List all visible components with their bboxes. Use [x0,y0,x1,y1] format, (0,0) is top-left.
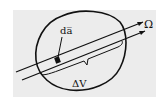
area-element-label: da̅ [60,25,72,36]
volume-label: ΔV [72,78,87,89]
ray-line-upper [16,22,143,72]
area-element-marker [54,56,61,63]
volume-ray-diagram: da̅ Ω ΔV [0,0,164,101]
direction-label: Ω [144,18,153,31]
